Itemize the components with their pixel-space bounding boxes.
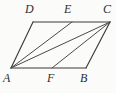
- figure-canvas: [0, 0, 116, 93]
- side-BC-line: [86, 22, 110, 68]
- vertex-label-F: F: [47, 72, 54, 84]
- geometry-figure: D E C A F B: [0, 0, 116, 93]
- segment-AE-line: [11, 22, 72, 68]
- vertex-label-D: D: [25, 3, 34, 15]
- vertex-label-C: C: [103, 3, 111, 15]
- vertex-label-B: B: [80, 72, 87, 84]
- vertex-label-A: A: [3, 72, 10, 84]
- side-DA-line: [11, 22, 33, 68]
- vertex-label-E: E: [64, 3, 71, 15]
